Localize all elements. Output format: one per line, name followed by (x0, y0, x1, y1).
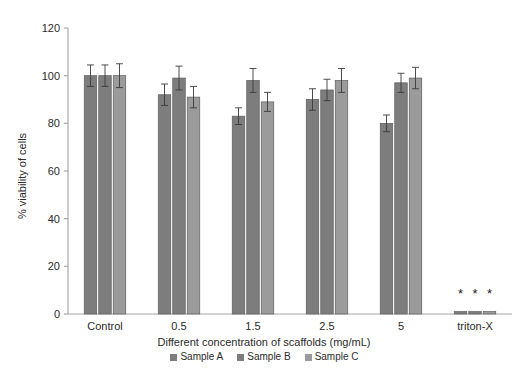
x-tick-label: triton-X (457, 320, 493, 332)
bar (321, 90, 334, 314)
y-tick-label: 60 (48, 165, 60, 177)
bar (306, 100, 319, 315)
y-axis-title: % viability of cells (16, 132, 28, 219)
bar (173, 78, 186, 314)
legend-swatch-sample-c (305, 354, 312, 361)
bar (380, 123, 393, 314)
bar (261, 102, 274, 314)
legend-swatch-sample-a (170, 354, 177, 361)
x-tick-label: Control (87, 320, 122, 332)
bar (454, 312, 467, 314)
bar (187, 97, 200, 314)
x-tick-label: 0.5 (171, 320, 186, 332)
legend-label-sample-b: Sample B (247, 352, 290, 362)
significance-star: * (487, 286, 492, 301)
y-tick-labels: 020406080100120 (42, 22, 60, 320)
bar (113, 76, 126, 314)
chart-legend: Sample A Sample B Sample C (0, 352, 529, 362)
bar (84, 76, 97, 314)
bar (469, 312, 482, 314)
bar (335, 80, 348, 314)
bar (395, 83, 408, 314)
y-tick-label: 20 (48, 260, 60, 272)
bar (99, 76, 112, 314)
bar (158, 95, 171, 314)
viability-bar-chart: 020406080100120 *** Control0.51.52.55tri… (0, 0, 529, 375)
y-tick-label: 40 (48, 213, 60, 225)
x-tick-label: 1.5 (245, 320, 260, 332)
bars-layer (84, 64, 496, 314)
bar (247, 80, 260, 314)
significance-star: * (472, 286, 477, 301)
x-tick-label: 5 (398, 320, 404, 332)
axis-layer (64, 28, 512, 314)
x-tick-label: 2.5 (319, 320, 334, 332)
significance-star: * (458, 286, 463, 301)
legend-label-sample-a: Sample A (180, 352, 223, 362)
bar (483, 312, 496, 314)
y-tick-label: 80 (48, 117, 60, 129)
significance-stars: *** (458, 286, 492, 301)
chart-figure: 020406080100120 *** Control0.51.52.55tri… (0, 0, 529, 375)
legend-item-sample-b: Sample B (237, 352, 290, 362)
bar (232, 116, 245, 314)
legend-item-sample-a: Sample A (170, 352, 223, 362)
legend-item-sample-c: Sample C (305, 352, 359, 362)
legend-label-sample-c: Sample C (315, 352, 359, 362)
bar (409, 78, 422, 314)
x-axis-title: Different concentration of scaffolds (mg… (158, 336, 371, 348)
y-tick-label: 0 (54, 308, 60, 320)
y-tick-label: 100 (42, 70, 60, 82)
x-tick-labels: Control0.51.52.55triton-X (87, 320, 493, 332)
y-tick-label: 120 (42, 22, 60, 34)
legend-swatch-sample-b (237, 354, 244, 361)
